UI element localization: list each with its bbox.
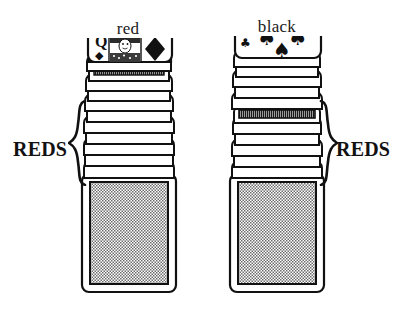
bottom-card-back-pattern	[90, 182, 168, 284]
top-card-seven-of-spades: 7 ♣ ♠ ♠ ♠	[235, 36, 321, 62]
curly-brace-right-icon	[321, 101, 337, 185]
brace-left	[68, 100, 88, 186]
brace-label-reds-left: REDS	[13, 139, 67, 159]
bottom-card-back-pattern	[238, 182, 316, 284]
top-card-queen-of-diamonds: Q ◆	[88, 38, 172, 62]
brace-right	[318, 100, 338, 186]
pile-label-black: black	[222, 18, 332, 35]
card-edge-hatch	[239, 110, 315, 118]
figure-canvas: red black	[0, 0, 405, 312]
curly-brace-left-icon	[69, 101, 85, 185]
spade-pip-icon: ♠	[273, 38, 291, 62]
card-pile-black: 7 ♣ ♠ ♠ ♠	[226, 36, 328, 294]
brace-label-reds-right: REDS	[336, 139, 390, 159]
card-pile-red: Q ◆	[78, 38, 180, 296]
pile-label-red: red	[78, 20, 178, 37]
stack-edges	[84, 55, 174, 178]
diamond-pip-icon: ◆	[95, 49, 104, 62]
spade-pip-icon: ♠	[288, 36, 308, 50]
stack-edges	[232, 51, 322, 178]
club-pip-icon: ♣	[240, 36, 251, 50]
